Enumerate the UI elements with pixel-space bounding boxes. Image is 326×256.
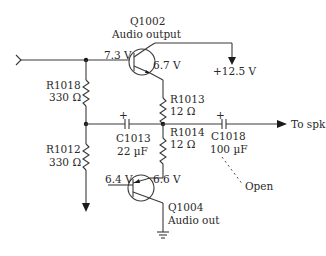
r1013-value-label: 12 Ω bbox=[170, 105, 196, 117]
left-rail bbox=[82, 58, 90, 212]
supply-voltage-label: +12.5 V bbox=[213, 65, 257, 77]
q1002-desc-label: Audio output bbox=[111, 28, 182, 40]
q1002-ref-label: Q1002 bbox=[130, 15, 165, 27]
r1018-ref-label: R1018 bbox=[46, 79, 81, 91]
c1018-value-label: 100 µF bbox=[210, 143, 248, 155]
r1013-resistor-icon bbox=[160, 98, 166, 124]
q1004-desc-label: Audio out bbox=[167, 214, 220, 226]
r1018-resistor-icon bbox=[83, 80, 89, 106]
ground-icon bbox=[157, 232, 169, 238]
q1002-base-voltage: 7.3 V bbox=[104, 49, 132, 61]
r1013-ref-label: R1013 bbox=[170, 93, 205, 105]
wire bbox=[150, 43, 155, 46]
wire bbox=[150, 73, 163, 80]
supply-arrow-icon bbox=[228, 57, 236, 65]
output-arrow-icon bbox=[277, 120, 287, 128]
q1004-collector-voltage: 6.6 V bbox=[153, 173, 181, 185]
input-arrow-icon bbox=[16, 55, 21, 65]
output-label: To spk bbox=[291, 118, 326, 130]
schematic-svg: + + bbox=[0, 0, 326, 256]
c1018-plus-sign: + bbox=[216, 109, 225, 121]
down-arrow-icon bbox=[82, 203, 90, 212]
r1014-value-label: 12 Ω bbox=[170, 138, 196, 150]
r1014-ref-label: R1014 bbox=[170, 126, 205, 138]
r1012-ref-label: R1012 bbox=[46, 143, 81, 155]
c1018-open-label: Open bbox=[245, 180, 274, 192]
c1013-ref-label: C1013 bbox=[116, 132, 151, 144]
r1018-value-label: 330 Ω bbox=[49, 91, 81, 103]
circuit-diagram: + + bbox=[0, 0, 326, 256]
c1013-plus-sign: + bbox=[119, 109, 128, 121]
q1002-emitter-voltage: 6.7 V bbox=[153, 59, 181, 71]
c1013-value-label: 22 µF bbox=[117, 145, 148, 157]
q1004-ref-label: Q1004 bbox=[168, 201, 204, 213]
c1013-branch: + bbox=[86, 109, 163, 129]
r1014-resistor-icon bbox=[160, 124, 166, 178]
q1004-base-voltage: 6.4 V bbox=[105, 173, 133, 185]
open-leader-line bbox=[222, 157, 243, 185]
c1018-ref-label: C1018 bbox=[211, 130, 246, 142]
r1012-value-label: 330 Ω bbox=[49, 156, 81, 168]
r1012-resistor-icon bbox=[83, 144, 89, 170]
